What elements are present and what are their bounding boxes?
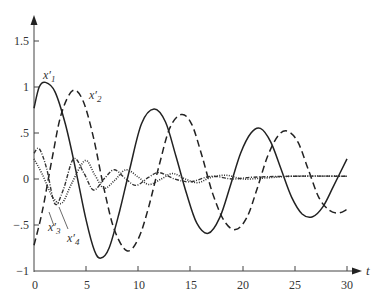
y-tick-label: 1.5 xyxy=(14,34,29,48)
series-group xyxy=(34,82,347,258)
y-tick-label: 0 xyxy=(23,172,29,186)
y-tick-label: −.5 xyxy=(13,218,29,232)
y-tick-label: 1 xyxy=(23,80,29,94)
x-tick-label: 0 xyxy=(32,278,38,292)
x-axis xyxy=(34,268,362,275)
series-label-x4: x′4 xyxy=(66,231,80,247)
y-axis-arrow-icon xyxy=(31,15,38,25)
x-tick-label: 15 xyxy=(185,278,197,292)
y-tick-label: .5 xyxy=(20,126,29,140)
x-axis-arrow-icon xyxy=(352,268,362,275)
x-tick-label: 10 xyxy=(133,278,145,292)
x-axis-title: t xyxy=(366,263,370,278)
x-tick-label: 5 xyxy=(84,278,90,292)
x-tick-label: 25 xyxy=(289,278,301,292)
series-x2-line xyxy=(34,90,347,251)
series-label-x1: x′1 xyxy=(42,68,55,84)
series-label-x2: x′2 xyxy=(88,88,102,104)
series-label-x3: x′3 xyxy=(47,220,61,236)
y-tick-label: −1 xyxy=(16,264,29,278)
series-x1-line xyxy=(34,82,347,258)
x-ticks: 0 5 10 15 20 25 30 xyxy=(32,266,353,292)
x-tick-label: 20 xyxy=(237,278,249,292)
x-tick-label: 30 xyxy=(341,278,353,292)
line-chart: −1 −.5 0 .5 1 1.5 0 5 10 15 20 25 30 t x… xyxy=(0,0,383,301)
